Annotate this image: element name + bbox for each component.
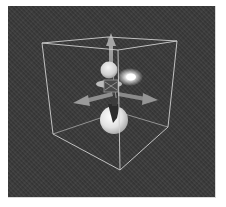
lower-sphere[interactable] <box>100 98 128 134</box>
upper-sphere[interactable] <box>101 62 118 79</box>
gizmo-arrow-left-icon[interactable] <box>73 92 113 106</box>
3d-viewport[interactable] <box>8 6 216 198</box>
scene-canvas[interactable] <box>8 6 215 197</box>
gizmo-arrow-right-icon[interactable] <box>118 92 158 105</box>
